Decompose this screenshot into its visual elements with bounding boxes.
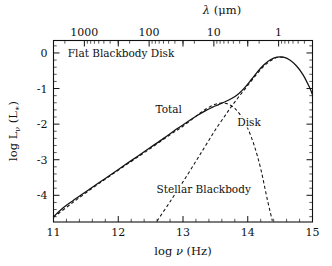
y-tick-label: -2 bbox=[37, 118, 48, 131]
annotation-label: Disk bbox=[237, 116, 261, 128]
x-axis-title: log ν (Hz) bbox=[154, 244, 211, 258]
y-tick-label: 0 bbox=[41, 47, 48, 60]
y-tick-label: -4 bbox=[37, 189, 48, 202]
x-tick-label: 15 bbox=[306, 226, 320, 239]
annotation-label: Flat Blackbody Disk bbox=[68, 47, 175, 59]
x-tick-label: 12 bbox=[111, 226, 125, 239]
x-tick-label: 14 bbox=[241, 226, 255, 239]
y-tick-label: -1 bbox=[37, 83, 48, 96]
top-tick-label: 1 bbox=[275, 26, 282, 39]
top-tick-label: 10 bbox=[207, 26, 221, 39]
top-tick-label: 100 bbox=[139, 26, 160, 39]
annotation-label: Stellar Blackbody bbox=[157, 183, 251, 195]
top-tick-label: 1000 bbox=[70, 26, 98, 39]
top-axis-title: λ (μm) bbox=[202, 3, 241, 17]
annotation-label: Total bbox=[156, 103, 183, 115]
y-tick-label: -3 bbox=[37, 154, 48, 167]
x-tick-label: 13 bbox=[176, 226, 190, 239]
sed-plot-figure: 1112131415 0-1-2-3-4 1000100101 Flat Bla… bbox=[0, 0, 332, 266]
x-tick-label: 11 bbox=[47, 226, 61, 239]
